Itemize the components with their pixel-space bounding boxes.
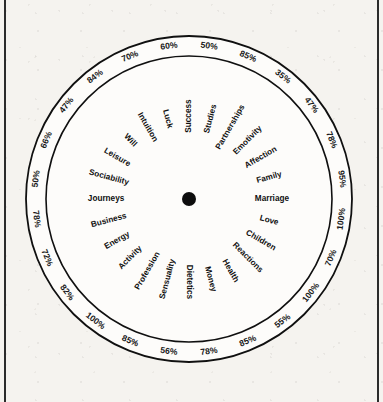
- radar-chart-svg: 50%85%35%47%78%95%100%70%100%55%85%78%56…: [0, 0, 383, 402]
- radar-hub-dot: [182, 192, 196, 206]
- radar-category-label: Success: [184, 99, 193, 133]
- radar-center-hub: [182, 192, 196, 206]
- radar-category-label: Marriage: [255, 194, 290, 203]
- page-root: 50%85%35%47%78%95%100%70%100%55%85%78%56…: [0, 0, 383, 402]
- radar-chart: 50%85%35%47%78%95%100%70%100%55%85%78%56…: [0, 0, 383, 402]
- radar-category-label: Journeys: [88, 194, 125, 203]
- radar-category-label: Dietetics: [185, 265, 194, 300]
